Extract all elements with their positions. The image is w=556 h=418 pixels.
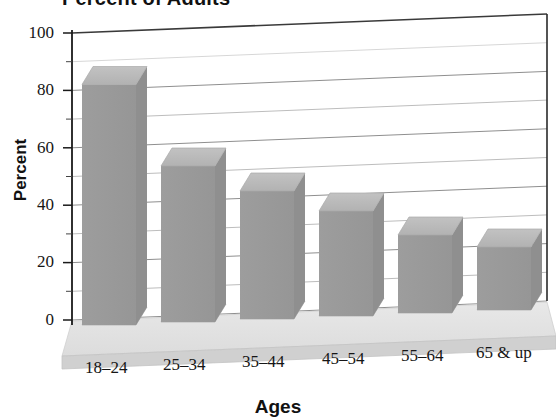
y-tick-label-0: 0 bbox=[8, 310, 54, 330]
chart-figure: Percent of Adults bbox=[0, 0, 556, 418]
x-tick-label-65-and-up: 65 & up bbox=[476, 343, 532, 363]
x-tick-label-18-24: 18–24 bbox=[85, 358, 128, 378]
bar-55-64[interactable] bbox=[398, 217, 463, 313]
y-tick-label-100: 100 bbox=[8, 23, 54, 43]
x-tick-label-25-34: 25–34 bbox=[163, 355, 206, 375]
y-axis-title: Percent bbox=[11, 122, 31, 218]
bar-18-24[interactable] bbox=[82, 67, 147, 326]
x-tick-label-35-44: 35–44 bbox=[242, 352, 285, 372]
x-tick-label-55-64: 55–64 bbox=[401, 346, 444, 366]
x-axis-title: Ages bbox=[0, 396, 556, 418]
bar-25-34[interactable] bbox=[161, 148, 226, 322]
bar-45-54[interactable] bbox=[319, 193, 384, 316]
y-tick-label-20: 20 bbox=[8, 252, 54, 272]
y-tick-label-80: 80 bbox=[8, 80, 54, 100]
x-tick-label-45-54: 45–54 bbox=[322, 349, 365, 369]
bar-35-44[interactable] bbox=[240, 173, 305, 319]
y-axis bbox=[63, 30, 72, 325]
bar-65-and-up[interactable] bbox=[477, 229, 542, 310]
